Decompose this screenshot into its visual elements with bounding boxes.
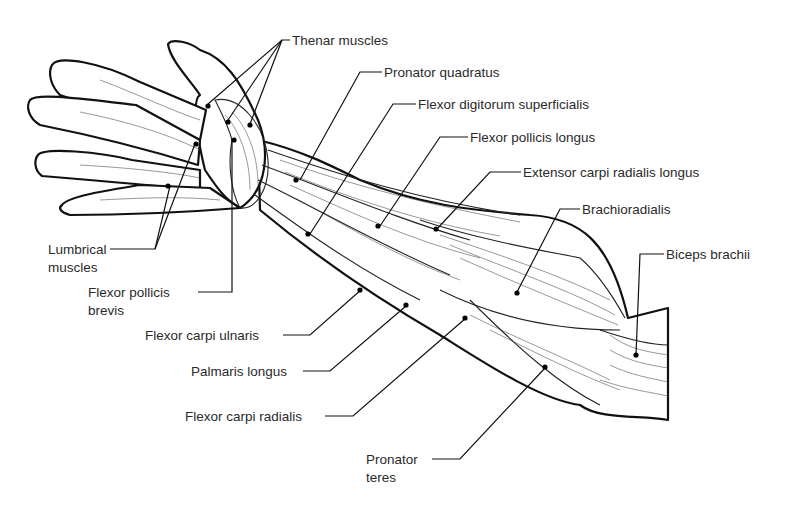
label-lumbrical-muscles: Lumbrical muscles (48, 241, 118, 277)
label-pronator-teres: Pronator teres (366, 451, 428, 487)
forearm-muscle-diagram: Thenar muscles Pronator quadratus Flexor… (0, 0, 789, 505)
label-flexor-carpi-ulnaris: Flexor carpi ulnaris (145, 327, 259, 345)
label-flexor-digitorum-superficialis: Flexor digitorum superficialis (418, 96, 589, 114)
label-biceps-brachii: Biceps brachii (666, 246, 750, 264)
label-flexor-pollicis-longus: Flexor pollicis longus (470, 129, 595, 147)
label-extensor-carpi-radialis-longus: Extensor carpi radialis longus (523, 164, 699, 182)
label-pronator-quadratus: Pronator quadratus (384, 64, 500, 82)
label-flexor-pollicis-brevis: Flexor pollicis brevis (88, 284, 188, 320)
label-thenar-muscles: Thenar muscles (292, 32, 388, 50)
label-flexor-carpi-radialis: Flexor carpi radialis (185, 408, 302, 426)
label-palmaris-longus: Palmaris longus (191, 363, 287, 381)
little-finger-outline (60, 185, 240, 215)
label-brachioradialis: Brachioradialis (582, 201, 671, 219)
